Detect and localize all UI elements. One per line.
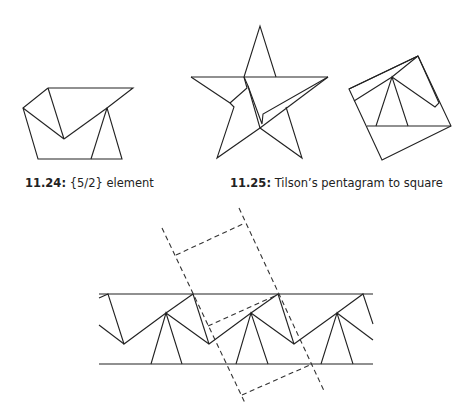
figure-canvas — [0, 0, 469, 404]
strip-drawing — [99, 208, 373, 403]
figure-11-24-drawing — [23, 88, 133, 159]
caption-number: 11.24: — [25, 176, 66, 190]
caption-text: Tilson’s pentagram to square — [271, 176, 443, 190]
caption-number: 11.25: — [230, 176, 271, 190]
caption-text: {5/2} element — [66, 176, 154, 190]
figure-caption-11-24: 11.24: {5/2} element — [25, 176, 154, 190]
figure-11-25-square — [349, 56, 451, 160]
figure-11-25-pentagram — [191, 26, 328, 158]
figure-caption-11-25: 11.25: Tilson’s pentagram to square — [230, 176, 443, 190]
